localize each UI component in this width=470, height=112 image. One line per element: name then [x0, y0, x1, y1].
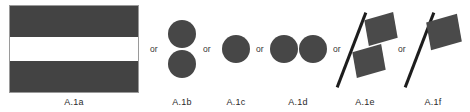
- flag-band-top-dark: [10, 6, 138, 37]
- flag-band-bottom-dark: [10, 61, 138, 92]
- shape-a1c-circle: [222, 35, 250, 63]
- label-a1d: A.1d: [268, 97, 328, 107]
- label-a1f: A.1f: [403, 97, 463, 107]
- label-a1b: A.1b: [152, 97, 212, 107]
- shape-a1b-circle-top: [168, 20, 196, 48]
- shape-a1a-banded-flag: [9, 5, 139, 93]
- flag-band-middle-light: [10, 37, 138, 62]
- or-separator-4: or: [333, 44, 341, 54]
- or-separator-3: or: [256, 44, 264, 54]
- label-a1a: A.1a: [44, 97, 104, 107]
- or-separator-1: or: [150, 44, 158, 54]
- shape-a1e-flag-upper: [364, 12, 397, 46]
- label-a1c: A.1c: [206, 97, 266, 107]
- shape-a1d-circle-right: [299, 35, 327, 63]
- shape-a1d-circle-left: [270, 35, 298, 63]
- shape-a1b-circle-bottom: [168, 50, 196, 78]
- or-separator-5: or: [398, 44, 406, 54]
- label-a1e: A.1e: [335, 97, 395, 107]
- symbol-variants-figure: A.1a or A.1b or A.1c or A.1d or A.1e or …: [0, 0, 470, 112]
- or-separator-2: or: [203, 44, 211, 54]
- shape-a1e-flag-lower: [352, 44, 385, 78]
